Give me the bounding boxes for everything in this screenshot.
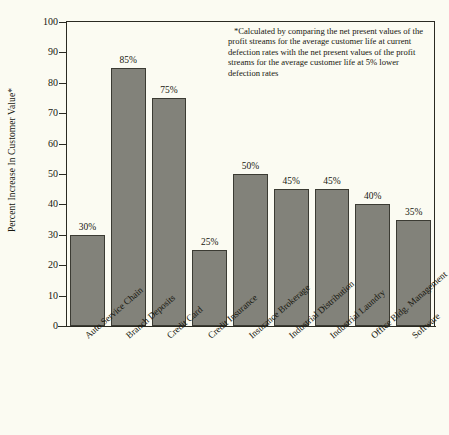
y-tick-label: 70 bbox=[24, 108, 58, 118]
y-tick-mark bbox=[59, 265, 66, 266]
y-tick-mark bbox=[59, 235, 66, 236]
y-tick-label: 0 bbox=[24, 321, 58, 331]
bar-value-label: 50% bbox=[224, 161, 277, 172]
y-tick-label: 20 bbox=[24, 260, 58, 270]
y-tick-label: 80 bbox=[24, 78, 58, 88]
y-axis-tick-labels: 0102030405060708090100 bbox=[24, 0, 58, 435]
y-tick-mark bbox=[59, 113, 66, 114]
bar-value-label: 75% bbox=[143, 85, 196, 96]
y-tick-label: 30 bbox=[24, 230, 58, 240]
bar-value-label: 85% bbox=[102, 55, 155, 66]
y-tick-mark bbox=[59, 22, 66, 23]
bar-value-label: 45% bbox=[306, 176, 359, 187]
y-tick-label: 90 bbox=[24, 47, 58, 57]
y-tick-mark bbox=[59, 204, 66, 205]
bar-value-label: 35% bbox=[387, 207, 440, 218]
bar-value-label: 40% bbox=[346, 191, 399, 202]
bar-slot[interactable]: 25% bbox=[189, 22, 230, 326]
bar-value-label: 25% bbox=[183, 237, 236, 248]
y-tick-label: 100 bbox=[24, 17, 58, 27]
y-tick-mark bbox=[59, 326, 66, 327]
y-axis-title: Percent Increase In Customer Value* bbox=[4, 10, 20, 310]
y-tick-mark bbox=[59, 144, 66, 145]
y-tick-mark bbox=[59, 174, 66, 175]
y-tick-mark bbox=[59, 296, 66, 297]
y-tick-label: 10 bbox=[24, 291, 58, 301]
bar-value-label: 30% bbox=[61, 222, 114, 233]
y-tick-label: 60 bbox=[24, 139, 58, 149]
y-tick-label: 40 bbox=[24, 199, 58, 209]
bar[interactable] bbox=[70, 235, 105, 326]
y-tick-mark bbox=[59, 52, 66, 53]
y-tick-mark bbox=[59, 83, 66, 84]
footnote-annotation: *Calculated by comparing the net present… bbox=[228, 26, 426, 78]
bar[interactable] bbox=[152, 98, 187, 326]
y-tick-label: 50 bbox=[24, 169, 58, 179]
bar-slot[interactable]: 30% bbox=[67, 22, 108, 326]
bar-slot[interactable]: 85% bbox=[108, 22, 149, 326]
bar-slot[interactable]: 75% bbox=[149, 22, 190, 326]
